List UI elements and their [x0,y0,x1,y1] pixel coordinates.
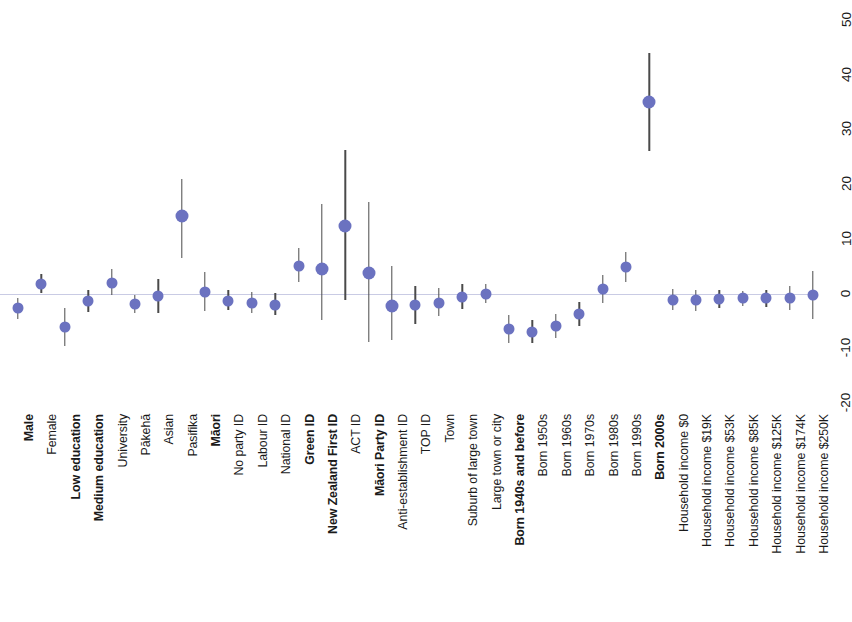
x-axis-tick-label: Born 1940s and before [514,414,526,546]
y-axis-tick-label: -10 [839,338,852,358]
data-point [620,261,631,272]
x-axis-tick-label: ACT ID [350,414,362,454]
x-axis-tick-label: Pasifika [187,414,199,457]
data-point [13,303,24,314]
y-axis-tick: 20 [839,176,852,191]
x-axis-tick-label: Household income $85K [748,414,760,547]
x-axis-tick-label: Labour ID [257,414,269,468]
data-point [223,295,234,306]
data-point [246,297,257,308]
x-axis-tick-label: Town [444,414,456,443]
x-axis-tick-label: Anti-establishment ID [397,414,409,530]
x-axis-tick-label: Born 1970s [584,414,596,476]
x-axis-tick-label: Large town or city [491,414,503,510]
data-point [667,294,678,305]
x-axis-tick-label: Household income $19K [701,414,713,547]
x-axis-labels: MaleFemaleLow educationMedium educationU… [0,412,852,622]
data-point [433,297,444,308]
data-point [106,278,117,289]
zero-reference-line [0,294,810,295]
x-axis-tick-label: Low education [70,414,82,499]
data-point [784,292,795,303]
data-point [293,261,304,272]
x-axis-tick-label: Male [23,414,35,441]
y-axis-tick-label: 10 [839,231,852,246]
data-point [59,321,70,332]
x-axis-tick-label: Suburb of large town [467,414,479,526]
data-point [480,289,491,300]
x-axis-tick-label: Pākehā [140,414,152,455]
data-point [386,300,399,313]
y-axis-tick-label: 40 [839,67,852,82]
x-axis-tick-label: Green ID [304,414,316,465]
data-point [503,324,514,335]
data-point [597,283,608,294]
x-axis-tick-label: Household income $0 [678,414,690,532]
x-axis-tick-label: University [117,414,129,467]
y-axis-tick-label: 0 [839,289,852,297]
data-point [175,209,188,222]
plot-area [0,0,810,412]
x-axis-tick-label: TOP ID [420,414,432,454]
x-axis-tick-label: New Zealand First ID [327,414,339,534]
x-axis-tick-label: Household income $53K [724,414,736,547]
data-point [714,294,725,305]
x-axis-tick-label: Asian [163,414,175,445]
data-point [574,309,585,320]
data-point [36,278,47,289]
y-axis-tick-label: 30 [839,121,852,136]
y-axis-tick: -10 [839,338,852,358]
data-point [129,298,140,309]
data-point [315,262,328,275]
x-axis-tick-label: Māori [210,414,222,447]
data-point [737,293,748,304]
x-axis-tick-label: Māori Party ID [374,414,386,496]
data-point [339,220,352,233]
y-axis: -20-1001020304050 [810,0,852,430]
x-axis-tick-label: Born 1980s [608,414,620,476]
y-axis-tick: 50 [839,12,852,27]
x-axis-tick-label: National ID [280,414,292,474]
data-point [200,286,211,297]
x-axis-tick-label: Born 1960s [561,414,573,476]
data-point [527,326,538,337]
data-point [550,321,561,332]
x-axis-tick-label: Household income $174K [795,414,807,554]
x-axis-tick-label: Born 1990s [631,414,643,476]
data-point [457,291,468,302]
data-point [153,290,164,301]
y-axis-tick-label: -20 [839,393,852,413]
data-point [270,299,281,310]
data-point [691,295,702,306]
x-axis-tick-label: Female [46,414,58,455]
data-point [83,295,94,306]
y-axis-tick: 0 [839,289,852,297]
data-point [761,293,772,304]
y-axis-tick-label: 50 [839,12,852,27]
x-axis-tick-label: Household income $250K [818,414,830,554]
y-axis-tick: -20 [839,393,852,413]
coefficient-plot: MaleFemaleLow educationMedium educationU… [0,0,852,622]
y-axis-tick: 30 [839,121,852,136]
y-axis-tick-label: 20 [839,176,852,191]
data-point [410,300,421,311]
y-axis-tick: 10 [839,231,852,246]
x-axis-tick-label: Household income $125K [771,414,783,554]
data-point [643,96,656,109]
y-axis-tick: 40 [839,67,852,82]
x-axis-tick-label: Born 1950s [537,414,549,476]
x-axis-tick-label: Medium education [93,414,105,521]
x-axis-tick-label: Born 2000s [654,414,666,480]
data-point [362,267,375,280]
x-axis-tick-label: No party ID [233,414,245,476]
